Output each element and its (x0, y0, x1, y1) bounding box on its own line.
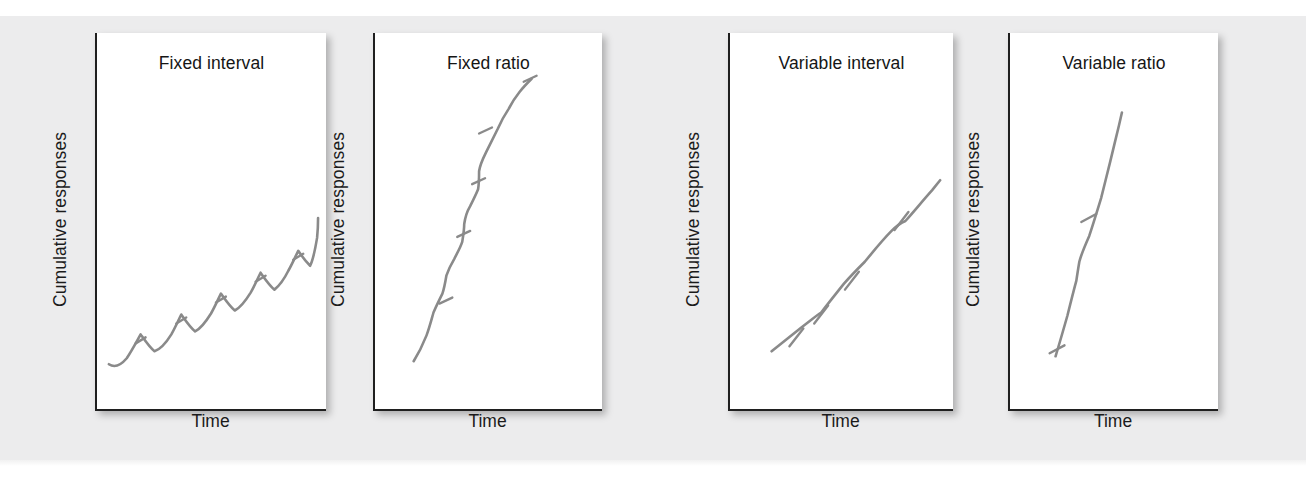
y-axis-label-fixed-interval: Cumulative responses (48, 30, 74, 408)
plot-area-fixed-interval: Fixed interval (95, 33, 326, 411)
y-axis-label-fixed-ratio: Cumulative responses (326, 30, 352, 408)
x-axis-label-variable-ratio: Time (1008, 411, 1218, 432)
panel-fixed-ratio: Cumulative responses Fixed ratio Time (326, 30, 616, 430)
plot-area-variable-interval: Variable interval (728, 33, 953, 411)
cumulative-record-curve-variable-interval (730, 33, 953, 409)
figure-root: Cumulative responses Fixed interval Time… (0, 0, 1306, 480)
x-axis-label-fixed-ratio: Time (373, 411, 602, 432)
panel-variable-ratio: Cumulative responses Variable ratio Time (961, 30, 1241, 430)
x-axis-label-fixed-interval: Time (95, 411, 326, 432)
panel-fixed-interval: Cumulative responses Fixed interval Time (48, 30, 340, 430)
cumulative-record-curve-fixed-interval (97, 33, 326, 409)
y-axis-label-text: Cumulative responses (964, 131, 985, 306)
cumulative-record-curve-fixed-ratio (375, 33, 602, 409)
plot-area-variable-ratio: Variable ratio (1008, 33, 1218, 411)
y-axis-label-variable-interval: Cumulative responses (681, 30, 707, 408)
x-axis-label-variable-interval: Time (728, 411, 953, 432)
y-axis-label-variable-ratio: Cumulative responses (961, 30, 987, 408)
y-axis-label-text: Cumulative responses (684, 131, 705, 306)
y-axis-label-text: Cumulative responses (329, 131, 350, 306)
cumulative-record-curve-variable-ratio (1010, 33, 1218, 409)
panel-variable-interval: Cumulative responses Variable interval T… (681, 30, 971, 430)
y-axis-label-text: Cumulative responses (51, 131, 72, 306)
plot-area-fixed-ratio: Fixed ratio (373, 33, 602, 411)
